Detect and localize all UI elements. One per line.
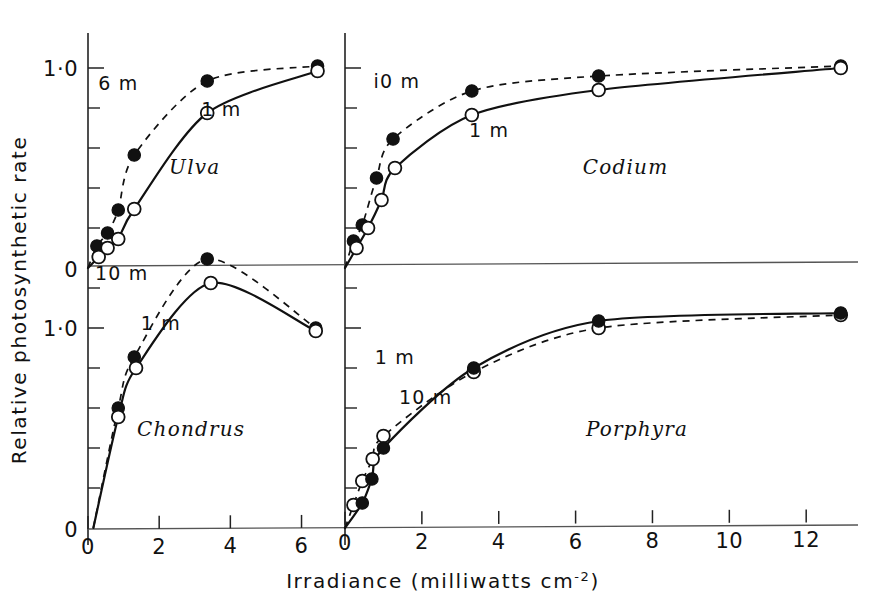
datapoint-codium-1m-7 xyxy=(834,62,847,75)
x-axis-left-ticklabel-0: 0 xyxy=(81,535,95,559)
x-axis-right-ticklabel-3: 6 xyxy=(569,530,583,554)
datapoint-ulva-6m-4 xyxy=(128,149,140,161)
series-label-chondrus-10m: 10 m xyxy=(95,262,149,284)
x-axis-right-ticklabel-1: 2 xyxy=(415,530,429,554)
datapoint-codium-1m-4 xyxy=(389,162,402,175)
datapoint-porphyra-10m-2 xyxy=(366,473,378,485)
y-ticklabel-top-1-0: 1·0 xyxy=(43,57,78,81)
curve-chondrus-1m xyxy=(93,283,315,528)
y-ticklabel-bottom-1-0: 1·0 xyxy=(43,317,78,341)
datapoint-porphyra-1m-3 xyxy=(366,453,379,466)
figure-canvas: 1·001·0002460246810126 m1 mUlvai0 m1 mCo… xyxy=(0,0,886,611)
x-axis-right-ticklabel-5: 10 xyxy=(715,529,743,553)
x-axis-left-ticklabel-1: 2 xyxy=(152,535,166,559)
datapoint-porphyra-10m-4 xyxy=(468,362,480,374)
datapoint-ulva-6m-5 xyxy=(201,75,213,87)
datapoint-porphyra-10m-5 xyxy=(592,315,604,327)
datapoint-codium-1m-3 xyxy=(375,194,388,207)
datapoint-codium-10m-3 xyxy=(370,172,382,184)
datapoint-codium-10m-4 xyxy=(387,133,399,145)
x-axis-right-ticklabel-0: 0 xyxy=(338,531,352,555)
series-label-codium-10m: i0 m xyxy=(374,70,421,92)
y-ticklabel-top-0: 0 xyxy=(64,258,78,282)
datapoint-ulva-1m-2 xyxy=(101,242,114,255)
curve-chondrus-10m xyxy=(93,259,315,528)
datapoint-codium-1m-1 xyxy=(350,242,363,255)
labels-layer: 1·001·0002460246810126 m1 mUlvai0 m1 mCo… xyxy=(7,57,820,593)
species-label-chondrus: Chondrus xyxy=(137,417,245,441)
x-axis-right-ticklabel-6: 12 xyxy=(792,528,820,552)
curves-layer xyxy=(88,66,841,528)
datapoint-codium-1m-6 xyxy=(592,84,605,97)
x-axis-right-ticklabel-4: 8 xyxy=(646,529,660,553)
datapoint-ulva-1m-3 xyxy=(112,233,125,246)
series-label-codium-1m: 1 m xyxy=(469,119,509,141)
x-axis-title: Irradiance (milliwatts cm-2) xyxy=(286,569,600,593)
datapoint-codium-10m-6 xyxy=(592,70,604,82)
datapoint-chondrus-1m-2 xyxy=(130,362,143,375)
series-label-ulva-1m: 1 m xyxy=(201,98,241,120)
species-label-porphyra: Porphyra xyxy=(585,417,688,441)
series-label-chondrus-1m: 1 m xyxy=(141,312,181,334)
datapoint-chondrus-1m-1 xyxy=(112,411,125,424)
species-label-codium: Codium xyxy=(583,155,669,179)
series-label-porphyra-1m: 1 m xyxy=(375,346,415,368)
datapoint-ulva-1m-4 xyxy=(128,203,141,216)
x-axis-left-ticklabel-2: 4 xyxy=(223,534,237,558)
series-label-ulva-6m: 6 m xyxy=(98,72,138,94)
y-ticklabel-bottom-0: 0 xyxy=(64,518,78,542)
datapoint-porphyra-1m-4 xyxy=(377,430,390,443)
datapoint-porphyra-10m-3 xyxy=(377,442,389,454)
datapoint-porphyra-10m-1 xyxy=(356,497,368,509)
x-axis-right-ticklabel-2: 4 xyxy=(492,530,506,554)
plot-svg: 1·001·0002460246810126 m1 mUlvai0 m1 mCo… xyxy=(0,0,886,611)
x-axis-left-ticklabel-3: 6 xyxy=(295,534,309,558)
datapoint-ulva-1m-6 xyxy=(311,65,324,78)
datapoint-chondrus-10m-3 xyxy=(201,253,213,265)
datapoint-chondrus-1m-3 xyxy=(204,277,217,290)
datapoint-codium-10m-5 xyxy=(466,85,478,97)
datapoint-ulva-6m-3 xyxy=(112,204,124,216)
series-label-porphyra-10m: 10 m xyxy=(399,386,453,408)
y-axis-title: Relative photosynthetic rate xyxy=(7,136,31,465)
datapoint-chondrus-1m-4 xyxy=(309,325,322,338)
datapoint-codium-1m-2 xyxy=(362,222,375,235)
datapoint-porphyra-10m-6 xyxy=(835,307,847,319)
species-label-ulva: Ulva xyxy=(169,155,220,179)
